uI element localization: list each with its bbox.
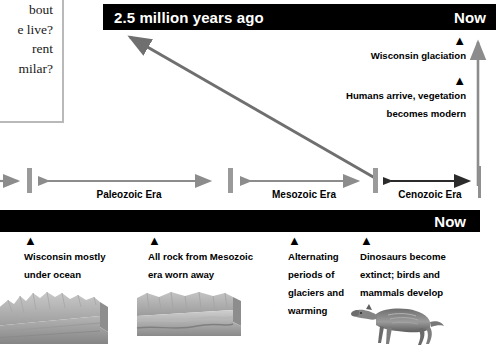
- bottom-timeline-bar: Now: [0, 210, 480, 232]
- caption-label: All rock from Mesozoic era worn away: [148, 251, 253, 280]
- triangle-marker-icon: ▲: [24, 236, 144, 246]
- caption-wisconsin-under-ocean: ▲ Wisconsin mostly under ocean: [24, 236, 144, 282]
- question-line-4: milar?: [0, 59, 53, 79]
- era-label-cenozoic: Cenozoic Era: [383, 189, 477, 200]
- question-line-2: e live?: [0, 20, 53, 40]
- timeline-figure: bout e live? rent milar? 2.5 million yea…: [0, 0, 496, 347]
- era-label-mesozoic: Mesozoic Era: [240, 189, 368, 200]
- caption-alternating-glaciers: ▲ Alternating periods of glaciers and wa…: [288, 236, 358, 318]
- paleozoic-span-arrow: [38, 172, 220, 190]
- era-label-paleozoic: Paleozoic Era: [38, 189, 220, 200]
- triangle-marker-icon: ▲: [360, 236, 478, 246]
- timeline-end-tick: [478, 166, 481, 198]
- caption-label: Dinosaurs become extinct; birds and mamm…: [360, 251, 446, 298]
- terrain-block-eroded-illustration: [135, 288, 245, 340]
- event-wisconsin-glaciation: ▲ Wisconsin glaciation: [318, 36, 466, 63]
- triangle-marker-icon: ▲: [318, 36, 466, 45]
- caption-label: Wisconsin mostly under ocean: [24, 251, 105, 280]
- caption-dinosaurs-extinct: ▲ Dinosaurs become extinct; birds and ma…: [360, 236, 478, 300]
- bottom-bar-now-label: Now: [434, 213, 466, 230]
- event-label: Humans arrive, vegetation becomes modern: [346, 90, 466, 119]
- early-mammal-illustration: [350, 298, 446, 347]
- terrain-block-mountains-illustration: [0, 286, 112, 347]
- top-bar-start-label: 2.5 million years ago: [114, 9, 264, 26]
- event-humans-arrive: ▲ Humans arrive, vegetation becomes mode…: [318, 76, 466, 121]
- question-line-3: rent: [0, 39, 53, 59]
- era-boundary-tick: [27, 168, 32, 193]
- caption-label: Alternating periods of glaciers and warm…: [288, 251, 344, 316]
- top-bar-now-label: Now: [454, 9, 486, 26]
- triangle-marker-icon: ▲: [288, 236, 358, 246]
- cenozoic-span-arrow: [383, 172, 477, 190]
- top-timeline-bar: 2.5 million years ago Now: [103, 4, 496, 30]
- era-band: Paleozoic Era Mesozoic Era: [0, 168, 496, 210]
- present-day-vertical-arrow: [470, 32, 488, 188]
- question-line-1: bout: [0, 0, 53, 20]
- event-label: Wisconsin glaciation: [371, 50, 466, 61]
- triangle-marker-icon: ▲: [148, 236, 266, 246]
- triangle-marker-icon: ▲: [318, 76, 466, 85]
- question-box: bout e live? rent milar?: [0, 0, 64, 123]
- mesozoic-span-arrow: [240, 172, 368, 190]
- caption-all-rock-worn-away: ▲ All rock from Mesozoic era worn away: [148, 236, 266, 282]
- era-boundary-tick: [228, 168, 233, 193]
- era-boundary-tick: [373, 168, 378, 193]
